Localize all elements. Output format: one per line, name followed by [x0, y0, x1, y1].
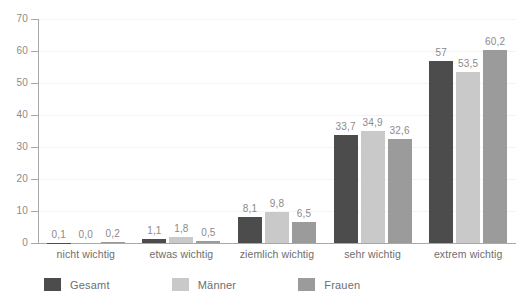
bar-group-bars: 1,11,80,5: [134, 19, 230, 243]
legend-label: Frauen: [324, 279, 360, 291]
category-label: sehr wichtig: [325, 248, 421, 260]
bar-group-bars: 5753,560,2: [420, 19, 516, 243]
y-axis-tick-label: 40: [2, 110, 28, 120]
y-axis-tick: [31, 115, 38, 116]
bar-holder: 33,7: [334, 19, 358, 243]
bar[interactable]: [169, 237, 193, 243]
bar-group: 33,734,932,6: [325, 19, 421, 243]
plot-area: 0,10,00,21,11,80,58,19,86,533,734,932,65…: [38, 19, 516, 243]
y-axis-tick-label: 0: [2, 238, 28, 248]
legend-item[interactable]: Männer: [172, 278, 237, 291]
y-axis-tick: [31, 147, 38, 148]
bar-group: 0,10,00,2: [38, 19, 134, 243]
bar-value-label: 0,0: [79, 230, 94, 240]
y-axis-tick: [31, 19, 38, 20]
legend-swatch-icon: [172, 278, 189, 291]
bar-value-label: 1,8: [174, 224, 189, 234]
bar-holder: 57: [429, 19, 453, 243]
bar-value-label: 6,5: [297, 209, 312, 219]
bar-group: 8,19,86,5: [229, 19, 325, 243]
y-axis-tick-label: 20: [2, 174, 28, 184]
category-label: ziemlich wichtig: [229, 248, 325, 260]
y-axis-tick-label: 60: [2, 46, 28, 56]
bar-holder: 0,2: [101, 19, 125, 243]
bar-holder: 8,1: [238, 19, 262, 243]
bar-value-label: 57: [435, 48, 447, 58]
legend-swatch-icon: [44, 278, 61, 291]
bar-holder: 34,9: [361, 19, 385, 243]
x-axis-line: [38, 243, 516, 244]
bar-holder: 53,5: [456, 19, 480, 243]
bar-value-label: 60,2: [485, 37, 505, 47]
bar[interactable]: [196, 241, 220, 243]
category-label: nicht wichtig: [38, 248, 134, 260]
bar[interactable]: [334, 135, 358, 243]
bar[interactable]: [142, 239, 166, 243]
legend-label: Männer: [198, 279, 237, 291]
y-axis-tick-label: 50: [2, 78, 28, 88]
y-axis-tick: [31, 243, 38, 244]
bar[interactable]: [456, 72, 480, 243]
y-axis-tick: [31, 83, 38, 84]
y-axis-tick: [31, 179, 38, 180]
category-label: etwas wichtig: [134, 248, 230, 260]
bar-value-label: 32,6: [389, 126, 409, 136]
bar-holder: 9,8: [265, 19, 289, 243]
bar[interactable]: [429, 61, 453, 243]
bar-group-bars: 8,19,86,5: [229, 19, 325, 243]
bar-holder: 0,1: [47, 19, 71, 243]
legend-item[interactable]: Gesamt: [44, 278, 110, 291]
bar[interactable]: [483, 50, 507, 243]
bar-value-label: 53,5: [458, 59, 478, 69]
y-axis-tick: [31, 211, 38, 212]
bar-holder: 32,6: [388, 19, 412, 243]
bar[interactable]: [265, 212, 289, 243]
y-axis-tick-label: 30: [2, 142, 28, 152]
bar-holder: 60,2: [483, 19, 507, 243]
bar-value-label: 1,1: [147, 226, 162, 236]
bar-value-label: 34,9: [362, 118, 382, 128]
legend-swatch-icon: [298, 278, 315, 291]
bar-value-label: 0,1: [52, 230, 67, 240]
bar-group-bars: 0,10,00,2: [38, 19, 134, 243]
bar-holder: 1,1: [142, 19, 166, 243]
bar[interactable]: [388, 139, 412, 243]
bar[interactable]: [238, 217, 262, 243]
bar-value-label: 9,8: [270, 199, 285, 209]
chart-legend: GesamtMännerFrauen: [44, 278, 422, 291]
bar-holder: 6,5: [292, 19, 316, 243]
y-axis-tick-label: 10: [2, 206, 28, 216]
y-axis-tick: [31, 51, 38, 52]
bar-group: 1,11,80,5: [134, 19, 230, 243]
bar-value-label: 0,5: [201, 228, 216, 238]
bar-group-bars: 33,734,932,6: [325, 19, 421, 243]
bar[interactable]: [292, 222, 316, 243]
legend-item[interactable]: Frauen: [298, 278, 360, 291]
bar[interactable]: [361, 131, 385, 243]
bar-value-label: 8,1: [243, 204, 258, 214]
bar-value-label: 0,2: [106, 229, 121, 239]
y-axis-tick-label: 70: [2, 14, 28, 24]
category-label: extrem wichtig: [420, 248, 516, 260]
bar-holder: 1,8: [169, 19, 193, 243]
bar-holder: 0,5: [196, 19, 220, 243]
bar-chart: 010203040506070 0,10,00,21,11,80,58,19,8…: [0, 0, 522, 302]
bar-value-label: 33,7: [335, 122, 355, 132]
bar-group: 5753,560,2: [420, 19, 516, 243]
bar-holder: 0,0: [74, 19, 98, 243]
bar[interactable]: [101, 242, 125, 243]
legend-label: Gesamt: [70, 279, 110, 291]
